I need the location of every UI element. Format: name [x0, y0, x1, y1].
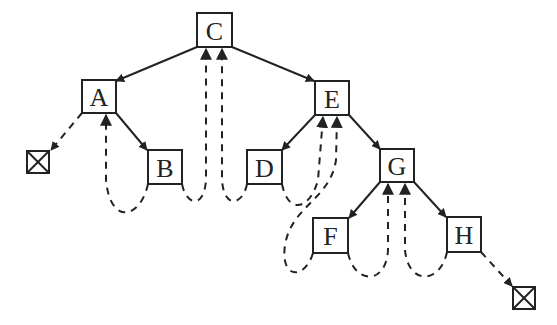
thread-B-A — [106, 115, 148, 212]
null-node-right — [513, 287, 535, 309]
thread-H-null-right — [481, 252, 512, 286]
threaded-binary-tree-diagram: C A E B D G F H — [0, 0, 557, 325]
edge-E-G — [349, 115, 380, 149]
node-label-B: B — [156, 154, 173, 183]
tree-nodes: C A E B D G F H — [82, 13, 481, 253]
edge-G-H — [414, 182, 446, 217]
node-label-G: G — [388, 152, 407, 181]
node-D: D — [247, 150, 282, 184]
edge-E-D — [282, 115, 315, 150]
node-A: A — [82, 80, 116, 113]
node-label-C: C — [206, 17, 223, 46]
node-label-A: A — [90, 83, 109, 112]
node-B: B — [148, 150, 182, 184]
node-label-E: E — [324, 85, 340, 114]
thread-A-null-left — [51, 113, 82, 150]
node-E: E — [315, 81, 349, 115]
thread-F-G — [348, 184, 388, 277]
node-label-F: F — [323, 222, 337, 251]
node-label-D: D — [255, 154, 274, 183]
node-H: H — [447, 217, 481, 252]
edge-A-B — [116, 113, 147, 150]
node-C: C — [197, 13, 232, 47]
null-node-left — [27, 151, 49, 173]
node-F: F — [313, 218, 348, 253]
edge-C-A — [116, 47, 197, 81]
edge-G-F — [349, 182, 380, 218]
node-label-H: H — [455, 221, 474, 250]
thread-D-C — [222, 49, 247, 201]
thread-H-G — [405, 184, 447, 277]
node-G: G — [380, 149, 414, 182]
thread-B-C — [182, 49, 206, 201]
thread-D-E — [282, 117, 323, 205]
tree-edges — [116, 47, 446, 218]
edge-C-E — [232, 47, 314, 81]
